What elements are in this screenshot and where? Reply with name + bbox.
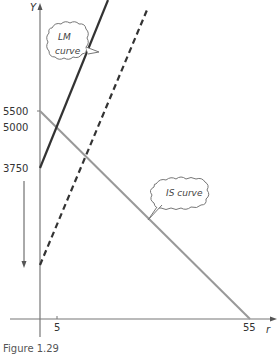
x-axis: r <box>10 317 277 336</box>
y-tick-5500: 5500 <box>3 106 28 117</box>
lm-curve-label-line1: LM <box>58 32 71 42</box>
x-axis-label: r <box>266 324 271 335</box>
shift-down-arrow-icon <box>22 181 27 268</box>
y-tick-labels: 5500 5000 3750 <box>3 106 40 174</box>
y-tick-3750: 3750 <box>3 163 28 174</box>
y-axis-label: Y <box>30 2 37 13</box>
y-tick-5000: 5000 <box>3 122 28 133</box>
is-curve <box>40 111 250 319</box>
y-axis-arrow-icon <box>38 3 43 10</box>
x-tick-55: 55 <box>243 322 256 333</box>
x-tick-5: 5 <box>54 322 60 333</box>
is-lm-figure: Y r 5500 5000 3750 5 55 LM curve <box>0 0 279 355</box>
is-curve-callout: IS curve <box>148 177 209 220</box>
lm-curve-label-line2: curve <box>55 46 81 56</box>
is-curve-label: IS curve <box>166 188 203 198</box>
x-axis-arrow-icon <box>270 317 277 322</box>
figure-caption: Figure 1.29 <box>3 343 59 354</box>
y-axis: Y <box>30 2 43 337</box>
